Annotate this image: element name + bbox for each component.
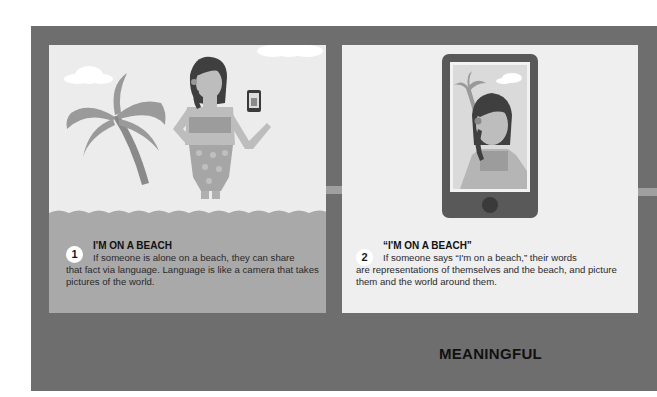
step-number-badge: 1 xyxy=(66,246,83,263)
cloud-icon xyxy=(64,66,113,84)
caption-text: are representations of themselves and th… xyxy=(356,264,626,288)
caption-title: I'M ON A BEACH xyxy=(66,240,326,252)
woman-figure-icon xyxy=(173,57,271,199)
home-button-icon xyxy=(482,197,498,213)
wave-line xyxy=(49,208,326,218)
caption-1: 1 I'M ON A BEACH If someone is alone on … xyxy=(66,240,326,288)
caption-text: that fact via language. Language is like… xyxy=(66,264,326,288)
caption-text-line1: If someone says “I'm on a beach,” their … xyxy=(356,252,626,264)
section-label-meaningful: MEANINGFUL xyxy=(439,345,542,362)
caption-title: “I'M ON A BEACH” xyxy=(356,240,626,252)
step-number-badge: 2 xyxy=(356,249,373,266)
arrow-stub-right xyxy=(638,188,657,196)
caption-2: 2 “I'M ON A BEACH” If someone says “I'm … xyxy=(356,240,626,288)
caption-text-line1: If someone is alone on a beach, they can… xyxy=(66,252,326,264)
cloud-icon xyxy=(257,45,323,57)
palm-tree-icon xyxy=(67,73,166,185)
